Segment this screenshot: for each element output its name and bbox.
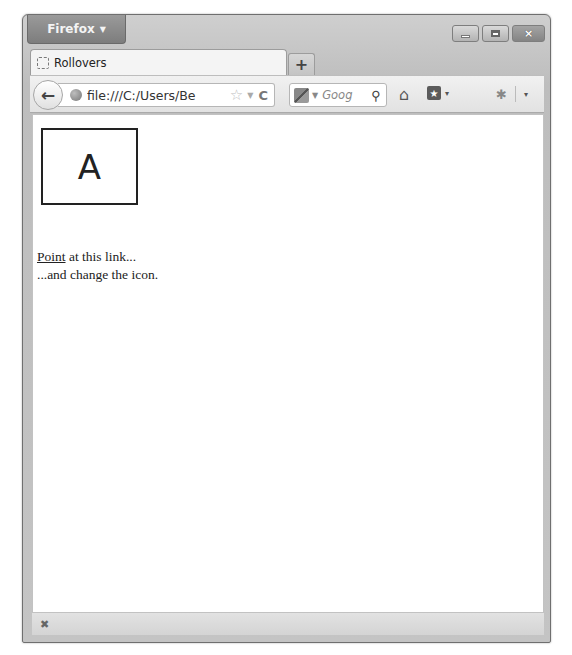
search-icon[interactable]: ⚲ [371, 88, 381, 103]
addon-icon: ✱ [496, 87, 507, 102]
search-bar[interactable]: ▼ Goog ⚲ [289, 83, 387, 107]
line-1-text: at this link... [66, 249, 137, 264]
addon-button[interactable]: ✱ ▾ [496, 86, 528, 102]
maximize-button[interactable] [482, 25, 509, 42]
chevron-down-icon: ▾ [445, 89, 449, 98]
window-controls: × [452, 25, 545, 42]
line-1: Point at this link... [37, 248, 158, 266]
back-button[interactable]: ← [33, 80, 63, 110]
blank-page-icon [37, 57, 49, 69]
maximize-icon [491, 30, 500, 37]
chevron-down-icon[interactable]: ▾ [524, 90, 528, 99]
google-icon[interactable] [294, 88, 309, 103]
home-icon[interactable]: ⌂ [399, 85, 409, 104]
bookmarks-button[interactable]: ★ ▾ [427, 86, 449, 100]
rollover-image: A [41, 128, 138, 205]
chevron-down-icon: ▼ [100, 25, 106, 34]
firefox-menu-label: Firefox [47, 22, 95, 36]
close-addon-bar-icon[interactable]: ✖ [40, 618, 49, 631]
page-text: Point at this link... ...and change the … [37, 248, 158, 284]
search-input[interactable]: Goog [322, 88, 371, 102]
plus-icon: + [295, 55, 308, 74]
tab-rollovers[interactable]: Rollovers [30, 49, 287, 75]
close-icon: × [524, 28, 533, 39]
new-tab-button[interactable]: + [288, 53, 315, 75]
back-arrow-icon: ← [41, 85, 55, 105]
rollover-link[interactable]: Point [37, 249, 66, 264]
url-bar[interactable]: file:///C:/Users/Be ☆ ▼ C [58, 83, 275, 107]
tab-title: Rollovers [54, 56, 107, 70]
navigation-toolbar: file:///C:/Users/Be ☆ ▼ C ← ▼ Goog ⚲ ⌂ ★… [30, 75, 544, 113]
bookmark-star-icon[interactable]: ☆ [230, 86, 243, 104]
add-on-bar: ✖ [32, 613, 544, 635]
history-dropdown-icon[interactable]: ▼ [247, 91, 253, 100]
minimize-icon [461, 35, 470, 38]
url-text[interactable]: file:///C:/Users/Be [87, 88, 230, 103]
minimize-button[interactable] [452, 25, 479, 42]
line-2: ...and change the icon. [37, 266, 158, 284]
globe-icon [70, 89, 82, 101]
separator [515, 86, 516, 102]
close-window-button[interactable]: × [512, 25, 545, 42]
reload-icon[interactable]: C [258, 88, 268, 103]
page-content: A Point at this link... ...and change th… [32, 114, 544, 613]
rollover-letter: A [78, 147, 101, 187]
browser-window: Firefox ▼ × Rollovers + file:///C:/Users… [22, 14, 551, 643]
firefox-menu-button[interactable]: Firefox ▼ [27, 15, 126, 44]
engine-dropdown-icon[interactable]: ▼ [312, 91, 318, 100]
bookmarks-icon: ★ [427, 86, 441, 100]
